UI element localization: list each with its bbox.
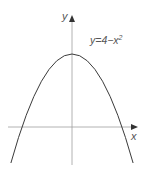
x-axis-label: x — [130, 130, 137, 142]
equation-label: y=4−x2 — [89, 34, 123, 46]
equation-text: y=4−x — [89, 34, 119, 46]
y-axis-arrow-icon — [69, 15, 75, 22]
y-axis-label: y — [61, 10, 69, 22]
parabola-diagram: y x y=4−x2 — [0, 0, 146, 178]
equation-exponent: 2 — [118, 34, 123, 41]
